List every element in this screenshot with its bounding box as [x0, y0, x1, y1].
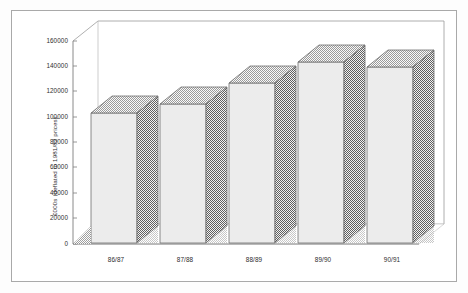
y-tick-label-0: 0	[24, 240, 68, 247]
y-tick-label-20000: 20000	[24, 214, 68, 221]
bar-89-90[interactable]	[298, 45, 365, 243]
y-axis-label: £000s (deflated to 1981/82 prices)	[51, 102, 58, 232]
bar-88-89[interactable]	[229, 66, 296, 243]
y-axis-label-wrap: £000s (deflated to 1981/82 prices)	[33, 60, 43, 210]
x-tick-label-87-88: 87/88	[162, 256, 208, 263]
y-tick-label-100000: 100000	[24, 113, 68, 120]
x-tick-label-90-91: 90/91	[369, 256, 415, 263]
chart-figure: 160000 140000 120000 100000 80000 60000 …	[0, 0, 468, 293]
bar-86-87[interactable]	[91, 96, 158, 243]
bar-chart-svg	[0, 0, 468, 293]
bar-90-91[interactable]	[367, 50, 434, 243]
y-tick-label-160000: 160000	[24, 37, 68, 44]
bar-87-88[interactable]	[160, 87, 227, 243]
y-tick-label-120000: 120000	[24, 87, 68, 94]
y-tick-label-140000: 140000	[24, 62, 68, 69]
x-tick-label-89-90: 89/90	[300, 256, 346, 263]
y-tick-label-80000: 80000	[24, 138, 68, 145]
plot-area: 160000 140000 120000 100000 80000 60000 …	[0, 0, 468, 293]
y-tick-label-40000: 40000	[24, 189, 68, 196]
x-tick-label-86-87: 86/87	[93, 256, 139, 263]
x-tick-label-88-89: 88/89	[231, 256, 277, 263]
y-tick-label-60000: 60000	[24, 163, 68, 170]
